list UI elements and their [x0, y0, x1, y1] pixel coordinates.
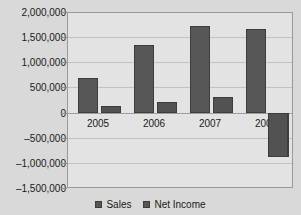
legend: Sales Net Income — [0, 196, 301, 212]
legend-swatch-icon — [143, 201, 150, 208]
legend-item-sales[interactable]: Sales — [95, 199, 131, 210]
legend-label-sales: Sales — [106, 199, 131, 210]
zero-gridline — [68, 113, 292, 114]
y-tick-label: –1,500,000 — [16, 183, 66, 194]
y-axis: 2,000,000 1,500,000 1,000,000 500,000 0 … — [0, 0, 66, 215]
legend-label-net-income: Net Income — [154, 199, 205, 210]
legend-item-net-income[interactable]: Net Income — [143, 199, 205, 210]
x-tick-label-2006: 2006 — [126, 118, 182, 130]
bar-sales-2005 — [78, 78, 98, 113]
x-tick-label-2005: 2005 — [70, 118, 126, 130]
y-tick-label: –500,000 — [24, 133, 66, 144]
bar-net-income-2007 — [213, 97, 233, 113]
plot-area — [67, 12, 293, 188]
bar-net-income-2008-overlay — [268, 113, 288, 157]
bar-sales-2007 — [190, 26, 210, 113]
y-tick-label: 1,000,000 — [22, 57, 67, 68]
y-tick-label: 2,000,000 — [22, 7, 67, 18]
x-tick-label-2007: 2007 — [182, 118, 238, 130]
gridline — [68, 138, 292, 139]
bar-net-income-2006 — [157, 102, 177, 113]
y-tick-mark — [61, 188, 67, 189]
legend-swatch-icon — [95, 201, 102, 208]
bar-sales-2008 — [246, 29, 266, 113]
bar-net-income-2005 — [101, 106, 121, 113]
y-tick-label: 1,500,000 — [22, 32, 67, 43]
bar-chart: 2,000,000 1,500,000 1,000,000 500,000 0 … — [0, 0, 301, 215]
y-tick-label: –1,000,000 — [16, 158, 66, 169]
bar-sales-2006 — [134, 45, 154, 113]
gridline — [68, 163, 292, 164]
